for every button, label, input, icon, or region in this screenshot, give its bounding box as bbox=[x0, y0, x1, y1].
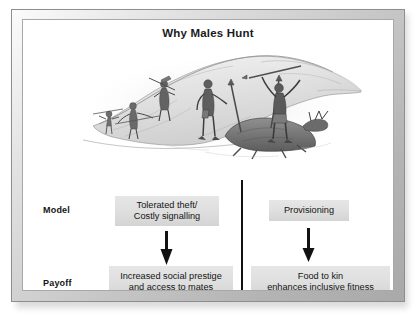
model-box-right-line1: Provisioning bbox=[284, 205, 334, 216]
down-arrow-icon-left bbox=[160, 231, 173, 265]
payoff-box-left-line2: and access to mates bbox=[120, 282, 222, 292]
row-label-model: Model bbox=[43, 205, 70, 215]
model-box-left[interactable]: Tolerated theft/ Costly signalling bbox=[115, 196, 219, 226]
model-box-left-line1: Tolerated theft/ bbox=[134, 200, 200, 211]
payoff-box-right[interactable]: Food to kin enhances inclusive fitness bbox=[251, 266, 390, 291]
figure-page: Why Males Hunt bbox=[0, 0, 417, 321]
hunting-scene-illustration bbox=[65, 44, 365, 166]
model-box-left-line2: Costly signalling bbox=[134, 211, 200, 222]
figure-canvas: Why Males Hunt bbox=[22, 19, 394, 291]
payoff-box-left-line1: Increased social prestige bbox=[120, 271, 222, 282]
figure-frame: Why Males Hunt bbox=[11, 9, 405, 302]
row-label-payoff: Payoff bbox=[43, 278, 72, 288]
figure-title: Why Males Hunt bbox=[23, 27, 393, 39]
payoff-box-right-line2: enhances inclusive fitness bbox=[267, 282, 374, 292]
down-arrow-icon-right bbox=[302, 228, 315, 262]
payoff-box-left[interactable]: Increased social prestige and access to … bbox=[109, 266, 233, 291]
model-box-right[interactable]: Provisioning bbox=[269, 200, 349, 221]
payoff-box-right-line1: Food to kin bbox=[267, 271, 374, 282]
column-divider bbox=[241, 180, 243, 291]
